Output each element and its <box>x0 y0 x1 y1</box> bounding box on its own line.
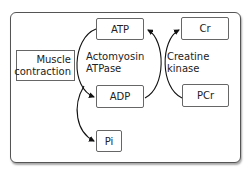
label-actomyosin-line2: ATPase <box>86 63 144 75</box>
node-cr: Cr <box>181 17 229 40</box>
node-adp: ADP <box>96 85 144 108</box>
node-atp: ATP <box>96 18 144 40</box>
node-pi: Pi <box>96 130 122 152</box>
arrow-adp-to-atp <box>145 30 161 98</box>
label-creatine-kinase: Creatine kinase <box>167 51 209 75</box>
node-muscle-contraction: Muscle contraction <box>16 50 75 81</box>
label-creatine-line1: Creatine <box>167 51 209 63</box>
label-creatine-line2: kinase <box>167 63 209 75</box>
label-actomyosin-line1: Actomyosin <box>86 51 144 63</box>
label-actomyosin-atpase: Actomyosin ATPase <box>86 51 144 75</box>
arrow-atp-to-pi <box>77 86 94 141</box>
node-pcr: PCr <box>182 84 229 107</box>
